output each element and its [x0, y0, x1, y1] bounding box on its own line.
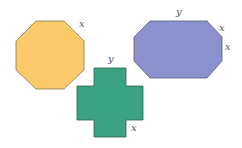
side-label-y: y — [175, 6, 182, 17]
side-label-y: y — [107, 53, 114, 64]
side-label-x: x — [225, 41, 231, 52]
elongated-octagon-group: y x x — [134, 6, 231, 78]
cross-group: y x — [77, 53, 143, 137]
side-label-x: x — [131, 122, 137, 133]
geometry-figure: x y x x y x — [0, 0, 242, 148]
elongated-octagon — [134, 21, 222, 78]
side-label-x: x — [219, 22, 225, 33]
regular-octagon — [16, 21, 84, 89]
regular-octagon-group: x — [16, 18, 85, 89]
side-label-x: x — [79, 18, 85, 29]
